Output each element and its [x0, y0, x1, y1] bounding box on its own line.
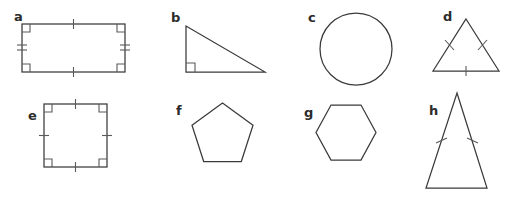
shape-g-label: g: [304, 105, 313, 120]
right-angle-mark-top-right: [117, 24, 125, 32]
shape-e-label: e: [28, 108, 37, 123]
tick-mark-right-side: [478, 40, 487, 50]
tick-mark-left-side: [445, 40, 454, 50]
shape-h-label: h: [429, 103, 438, 118]
right-angle-mark-bottom-right: [99, 159, 107, 167]
shape-c-circle: c: [308, 10, 392, 85]
shape-f-pentagon: f: [176, 103, 253, 162]
shape-a-rectangle: a: [14, 9, 130, 77]
right-angle-mark-top-left: [44, 104, 52, 112]
shape-b-label: b: [171, 10, 180, 25]
right-angle-mark-bottom-right: [117, 64, 125, 72]
shape-d-label: d: [443, 9, 452, 24]
rectangle-outline: [22, 24, 125, 72]
shape-c-label: c: [308, 10, 316, 25]
hexagon-outline: [316, 105, 376, 160]
shape-e-square: e: [28, 99, 112, 172]
shape-h-tall-isosceles-triangle: h: [426, 93, 487, 188]
right-angle-mark-bottom-left: [44, 159, 52, 167]
isosceles-triangle-outline: [433, 19, 499, 71]
shape-g-hexagon: g: [304, 105, 376, 160]
circle-outline: [320, 13, 392, 85]
shape-d-isosceles-triangle: d: [433, 9, 499, 76]
shape-f-label: f: [176, 103, 182, 118]
right-angle-mark-top-right: [99, 104, 107, 112]
right-angle-mark-top-left: [22, 24, 30, 32]
shapes-figure: a b c d: [0, 0, 513, 205]
shape-a-label: a: [14, 9, 23, 24]
right-angle-mark-vertex: [186, 63, 195, 72]
right-angle-mark-bottom-left: [22, 64, 30, 72]
pentagon-outline: [192, 103, 253, 162]
shape-b-right-triangle: b: [171, 10, 265, 72]
right-triangle-outline: [186, 26, 265, 72]
square-outline: [44, 104, 107, 167]
